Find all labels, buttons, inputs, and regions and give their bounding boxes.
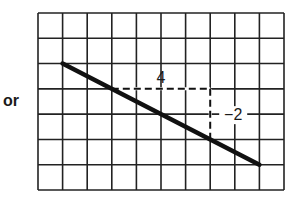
rise-label: −2: [224, 106, 242, 123]
slope-grid-diagram: 4 −2: [0, 0, 295, 207]
run-label: 4: [157, 69, 166, 86]
grid: [38, 13, 284, 190]
